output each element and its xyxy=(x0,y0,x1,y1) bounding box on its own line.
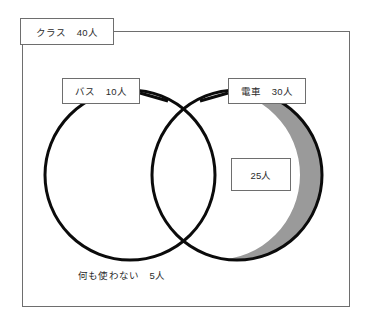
venn-circles-group xyxy=(0,0,367,330)
train-label-box: 電車 30人 xyxy=(228,78,306,104)
train-label-text: 電車 30人 xyxy=(241,84,293,98)
bus-set-circle xyxy=(45,90,215,260)
train-only-count-box: 25人 xyxy=(231,158,291,191)
venn-diagram-canvas: クラス 40人 バス 10人 電車 30人 25人 何も使わない 5人 xyxy=(0,0,367,330)
class-label-text: クラス 40人 xyxy=(36,25,98,39)
bus-label-text: バス 10人 xyxy=(75,84,127,98)
none-used-caption: 何も使わない 5人 xyxy=(78,268,165,282)
train-only-count-text: 25人 xyxy=(250,168,271,182)
bus-label-box: バス 10人 xyxy=(62,78,140,104)
class-label-box: クラス 40人 xyxy=(20,18,114,45)
